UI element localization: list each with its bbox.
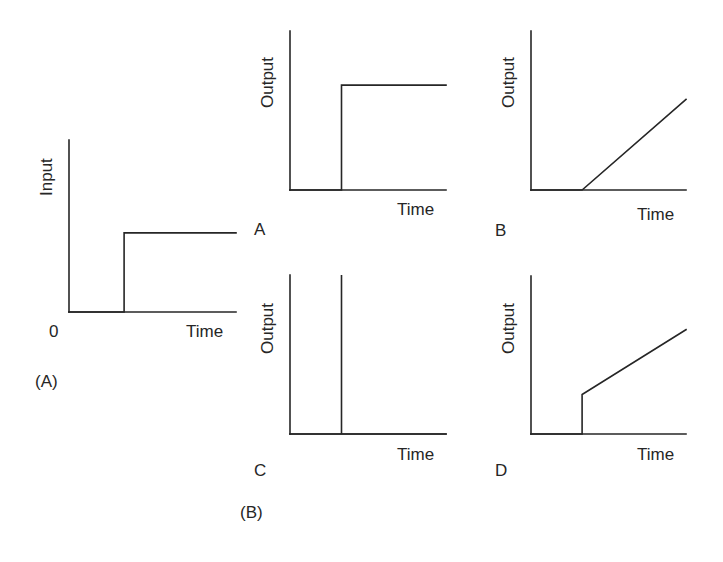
response-diagram: Input Time 0 (A) Output Time A Output Ti… [0, 0, 723, 562]
output-plot-a: Output Time A [254, 31, 446, 239]
input-plot: Input Time 0 (A) [35, 140, 236, 391]
input-step-curve [69, 233, 236, 312]
plot-c-y-label: Output [258, 303, 277, 354]
input-y-label: Input [37, 158, 56, 196]
plot-d-step-ramp-response-curve [531, 330, 686, 434]
plot-b-ramp-response-curve [531, 99, 686, 190]
plot-a-y-label: Output [258, 57, 277, 108]
output-plot-d: Output Time D [495, 276, 686, 480]
plot-a-letter: A [254, 220, 266, 239]
plot-d-letter: D [495, 461, 507, 480]
plot-b-y-label: Output [499, 57, 518, 108]
output-plot-b: Output Time B [495, 31, 686, 240]
origin-label: 0 [49, 322, 58, 341]
plot-d-y-label: Output [499, 303, 518, 354]
plot-d-x-label: Time [637, 445, 674, 464]
output-plot-c: Output Time C (B) [240, 275, 446, 522]
input-x-label: Time [186, 322, 223, 341]
part-label-a: (A) [35, 372, 58, 391]
plot-b-letter: B [495, 221, 506, 240]
part-label-b: (B) [240, 503, 263, 522]
plot-c-x-label: Time [397, 445, 434, 464]
plot-c-letter: C [254, 461, 266, 480]
plot-a-x-label: Time [397, 200, 434, 219]
plot-c-impulse-response-curve [290, 275, 446, 434]
plot-a-step-response-curve [290, 85, 446, 190]
plot-b-x-label: Time [637, 205, 674, 224]
